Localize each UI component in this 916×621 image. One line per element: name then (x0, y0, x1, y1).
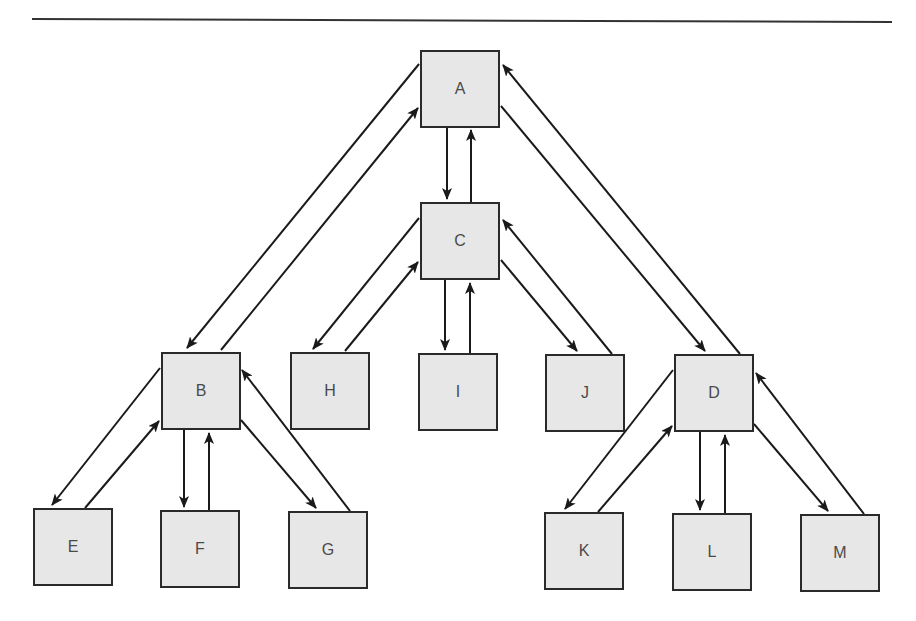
node-label: E (68, 538, 79, 556)
arrow-a-to-d (501, 106, 705, 351)
node-m: M (800, 514, 880, 592)
arrow-d-to-a (503, 65, 740, 354)
arrow-b-to-a (221, 108, 418, 350)
node-k: K (544, 512, 624, 590)
arrow-b-to-g (241, 420, 316, 508)
arrow-c-to-h (313, 218, 419, 349)
node-b: B (161, 352, 241, 430)
arrow-j-to-c (503, 220, 612, 354)
arrow-h-to-c (345, 262, 418, 351)
arrow-e-to-b (85, 421, 159, 508)
node-label: M (833, 544, 846, 562)
node-label: A (455, 80, 466, 98)
node-label: K (579, 542, 590, 560)
node-h: H (290, 352, 370, 430)
node-l: L (672, 513, 752, 591)
node-i: I (418, 353, 498, 431)
arrow-a-to-b (187, 64, 419, 348)
node-label: L (708, 543, 717, 561)
node-label: D (708, 384, 720, 402)
node-j: J (545, 354, 625, 432)
arrow-k-to-d (598, 426, 672, 512)
node-g: G (288, 511, 368, 589)
node-label: J (581, 384, 589, 402)
node-e: E (33, 508, 113, 586)
node-f: F (160, 510, 240, 588)
node-a: A (420, 50, 500, 128)
arrow-c-to-j (501, 260, 577, 351)
arrow-d-to-m (754, 424, 828, 511)
node-label: I (456, 383, 460, 401)
node-c: C (420, 202, 500, 280)
node-label: B (196, 382, 207, 400)
node-label: G (322, 541, 334, 559)
node-label: F (195, 540, 205, 558)
node-label: H (324, 382, 336, 400)
node-label: C (454, 232, 466, 250)
node-d: D (674, 354, 754, 432)
arrow-m-to-d (756, 373, 864, 514)
